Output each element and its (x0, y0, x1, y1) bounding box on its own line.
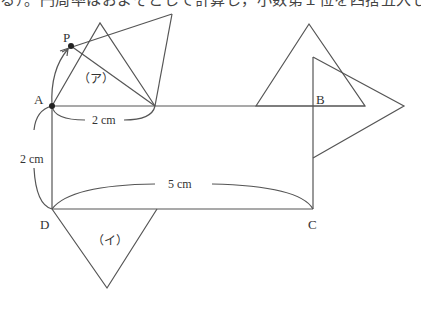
brace-bottom-right (212, 184, 313, 209)
label-d: D (40, 217, 49, 232)
region-a-label: （ア） (78, 72, 114, 86)
label-a: A (34, 92, 44, 107)
dimension-top-label: 2 cm (92, 113, 116, 127)
dimension-bottom-label: 5 cm (168, 177, 192, 191)
geometry-diagram: A P B C D （ア） （イ） 2 cm 2 cm 5 cm (0, 0, 421, 312)
label-c: C (308, 217, 317, 232)
rotated-triangle-top-edge (60, 14, 172, 51)
point-a-dot (49, 103, 55, 109)
rotated-triangle-right-edge (155, 14, 172, 106)
brace-bottom-left (52, 184, 155, 209)
brace-top-right (124, 106, 155, 120)
region-i-label: （イ） (92, 234, 128, 248)
brace-left-top (34, 106, 52, 130)
arc-a-to-p (52, 49, 68, 106)
label-b: B (316, 92, 325, 107)
triangle-upper-right (256, 24, 365, 106)
brace-left-bottom (34, 168, 52, 209)
dimension-left-label: 2 cm (20, 152, 44, 166)
triangle-i (52, 209, 157, 288)
brace-top-left (52, 106, 85, 120)
rotated-triangle (60, 14, 172, 106)
triangle-right (313, 57, 404, 158)
label-p: P (63, 30, 70, 45)
